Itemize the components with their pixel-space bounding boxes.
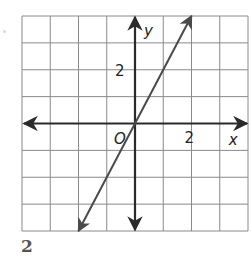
origin-label: O [114,130,126,148]
coordinate-graph: y x O 2 2 [0,0,251,261]
problem-number: 2 [21,236,33,256]
y-axis-label: y [143,22,154,40]
x-tick-label: 2 [185,129,195,147]
x-axis-label: x [228,131,238,149]
y-tick-label: 2 [115,62,125,80]
